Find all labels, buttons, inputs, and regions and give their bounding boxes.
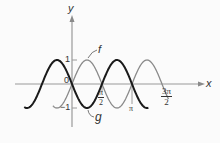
three-half-pi-denominator: 2 (164, 97, 169, 107)
x-tick-label-half-pi: π 2 (98, 89, 104, 107)
x-tick-label-pi: π (129, 104, 133, 113)
curve-f-label: f (98, 44, 101, 55)
half-pi-denominator: 2 (99, 98, 103, 107)
x-axis-label: x (206, 78, 212, 89)
origin-label: 0 (64, 76, 69, 85)
y-tick-label-1: 1 (65, 55, 70, 64)
x-tick-label-three-half-pi: 3π 2 (161, 87, 172, 107)
curve-g-label: g (95, 111, 102, 123)
g-leader-line (88, 110, 94, 117)
y-axis-label: y (68, 3, 74, 14)
f-leader-line (88, 50, 97, 58)
half-pi-numerator: π (98, 89, 104, 98)
y-axis-arrow-icon (70, 15, 75, 22)
function-plot (0, 0, 220, 143)
y-tick-label-neg1: −1 (60, 103, 70, 112)
x-axis-arrow-icon (198, 82, 205, 87)
three-half-pi-numerator: 3π (161, 87, 172, 97)
